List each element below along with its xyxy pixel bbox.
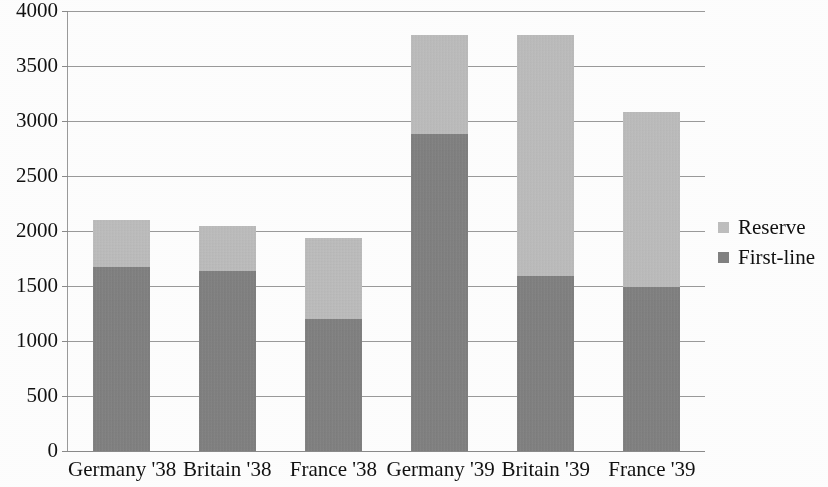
bar-segment-first-line[interactable] [305,319,362,451]
x-axis-label: Germany '38 [68,455,174,483]
y-axis-label: 3500 [16,55,58,76]
bar-segment-reserve[interactable] [411,35,468,134]
y-axis-label: 2500 [16,165,58,186]
bar-group[interactable] [199,226,256,451]
gridline-0 [68,451,705,452]
x-axis-label: Britain '39 [493,455,599,483]
x-axis-label: Germany '39 [387,455,493,483]
bar-segment-reserve[interactable] [93,220,150,267]
y-axis-label: 2000 [16,220,58,241]
legend-item[interactable]: Reserve [718,212,826,242]
bar-segment-first-line[interactable] [199,271,256,451]
x-axis: Germany '38Britain '38France '38Germany … [68,455,705,487]
bar-group[interactable] [93,220,150,451]
bar-segment-first-line[interactable] [517,276,574,451]
y-axis-label: 500 [27,385,59,406]
y-tick-0 [62,451,68,452]
bar-segment-first-line[interactable] [93,267,150,451]
chart-legend: ReserveFirst-line [718,212,826,272]
bar-group[interactable] [517,35,574,451]
legend-swatch-icon [718,252,729,263]
stacked-bar-chart: 05001000150020002500300035004000 Germany… [0,0,828,487]
y-axis-label: 1000 [16,330,58,351]
x-axis-label: France '38 [280,455,386,483]
legend-label: Reserve [738,217,806,238]
bar-segment-reserve[interactable] [305,238,362,319]
y-axis-label: 1500 [16,275,58,296]
bar-group[interactable] [411,35,468,451]
legend-swatch-icon [718,222,729,233]
x-axis-label: Britain '38 [174,455,280,483]
bar-series-container [68,11,705,451]
bar-group[interactable] [305,238,362,451]
legend-item[interactable]: First-line [718,242,826,272]
bar-group[interactable] [623,112,680,451]
x-axis-label: France '39 [599,455,705,483]
bar-segment-first-line[interactable] [411,134,468,451]
y-axis-label: 0 [48,440,59,461]
bar-segment-reserve[interactable] [517,35,574,276]
y-axis-label: 3000 [16,110,58,131]
bar-segment-reserve[interactable] [199,226,256,271]
legend-label: First-line [738,247,815,268]
y-axis: 05001000150020002500300035004000 [0,11,58,451]
bar-segment-first-line[interactable] [623,287,680,451]
bar-segment-reserve[interactable] [623,112,680,287]
y-axis-label: 4000 [16,0,58,21]
